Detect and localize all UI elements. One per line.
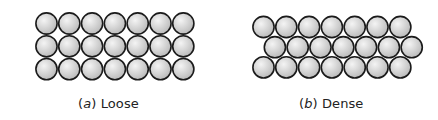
sphere (276, 57, 297, 78)
sphere (401, 37, 422, 58)
loose-caption: (a) Loose (78, 96, 139, 111)
sphere (264, 37, 285, 58)
sphere (173, 13, 194, 34)
dense-caption: (b) Dense (299, 96, 363, 111)
sphere (253, 16, 274, 37)
sphere (82, 13, 103, 34)
sphere (367, 16, 388, 37)
caption-letter: b (304, 96, 312, 111)
caption-text: Loose (101, 96, 139, 111)
sphere (276, 16, 297, 37)
sphere (299, 57, 320, 78)
sphere (82, 36, 103, 57)
sphere (59, 59, 80, 80)
sphere (333, 37, 354, 58)
sphere (173, 59, 194, 80)
sphere (104, 36, 125, 57)
sphere (127, 59, 148, 80)
sphere (150, 59, 171, 80)
dense-packing-diagram (219, 0, 438, 95)
sphere (310, 37, 331, 58)
sphere (344, 16, 365, 37)
sphere (378, 37, 399, 58)
sphere (36, 36, 57, 57)
sphere (59, 36, 80, 57)
sphere (299, 16, 320, 37)
caption-text: Dense (322, 96, 364, 111)
sphere (36, 13, 57, 34)
sphere (367, 57, 388, 78)
sphere (173, 36, 194, 57)
sphere (321, 57, 342, 78)
sphere (390, 57, 411, 78)
loose-panel: (a) Loose (0, 0, 219, 120)
sphere (253, 57, 274, 78)
sphere (59, 13, 80, 34)
caption-paren-close: ) (91, 96, 96, 111)
sphere (356, 37, 377, 58)
sphere (82, 59, 103, 80)
sphere (104, 59, 125, 80)
sphere (127, 36, 148, 57)
sphere (287, 37, 308, 58)
dense-panel: (b) Dense (219, 0, 438, 120)
sphere (390, 16, 411, 37)
sphere (104, 13, 125, 34)
sphere (150, 36, 171, 57)
sphere (344, 57, 365, 78)
loose-packing-diagram (0, 0, 219, 95)
sphere (321, 16, 342, 37)
sphere (127, 13, 148, 34)
caption-paren-close: ) (313, 96, 318, 111)
sphere (36, 59, 57, 80)
sphere (150, 13, 171, 34)
